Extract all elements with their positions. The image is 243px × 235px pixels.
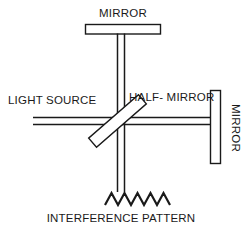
top-mirror-label: MIRROR — [99, 7, 147, 19]
top-mirror-surface — [86, 25, 161, 35]
half-mirror-label: HALF- MIRROR — [129, 91, 214, 103]
right-mirror: MIRROR — [211, 91, 243, 164]
light-source-label: LIGHT SOURCE — [8, 94, 97, 106]
light-source: LIGHT SOURCE — [8, 94, 97, 106]
right-mirror-label: MIRROR — [230, 104, 242, 152]
interference-pattern: INTERFERENCE PATTERN — [47, 193, 196, 224]
diagram-canvas: MIRROR MIRROR HALF- MIRROR LIGHT SOURCE — [0, 0, 242, 235]
interference-fringes — [105, 193, 170, 205]
interferometer-diagram: MIRROR MIRROR HALF- MIRROR LIGHT SOURCE — [0, 0, 242, 235]
top-mirror: MIRROR — [86, 7, 161, 34]
interference-pattern-label: INTERFERENCE PATTERN — [47, 212, 196, 224]
half-mirror: HALF- MIRROR — [89, 91, 215, 147]
